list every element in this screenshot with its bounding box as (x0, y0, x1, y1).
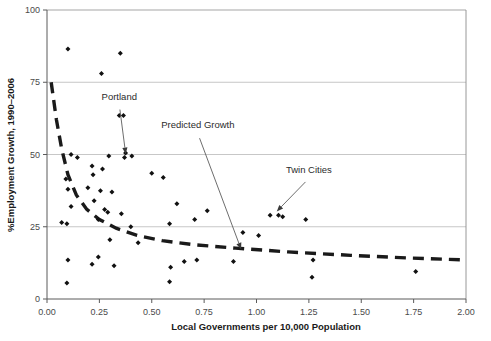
x-tick-label: 0.75 (195, 307, 213, 317)
x-tick-label: 1.50 (352, 307, 370, 317)
annotation-label-portland: Portland (102, 91, 137, 102)
chart-figure: 0.000.250.500.751.001.251.501.752.00 025… (0, 0, 491, 341)
x-axis-title: Local Governments per 10,000 Population (171, 321, 361, 332)
plot-background (0, 0, 491, 341)
y-tick-label: 50 (30, 150, 40, 160)
y-tick-label: 100 (25, 5, 40, 15)
y-tick-label: 0 (35, 294, 40, 304)
annotation-label-twin-cities: Twin Cities (286, 164, 332, 175)
x-tick-label: 0.25 (91, 307, 109, 317)
x-tick-label: 0.50 (143, 307, 161, 317)
x-tick-label: 1.25 (300, 307, 318, 317)
x-tick-label: 1.75 (405, 307, 423, 317)
y-tick-label: 25 (30, 222, 40, 232)
scatter-plot-canvas: 0.000.250.500.751.001.251.501.752.00 025… (0, 0, 491, 341)
x-tick-label: 2.00 (457, 307, 475, 317)
y-axis-title: %Employment Growth, 1990–2006 (5, 78, 16, 232)
y-tick-label: 75 (30, 77, 40, 87)
annotation-label-predicted-growth: Predicted Growth (161, 119, 234, 130)
x-tick-label: 1.00 (248, 307, 266, 317)
x-tick-label: 0.00 (38, 307, 56, 317)
